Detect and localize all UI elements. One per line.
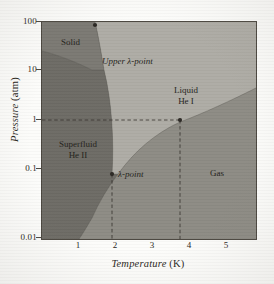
x-tick-label-4: 4 xyxy=(179,241,199,250)
y-tick-label-0.01: 0.01 xyxy=(20,233,37,242)
region-label-liquid-line2: He I xyxy=(178,96,194,106)
x-tick-label-3: 3 xyxy=(142,241,162,250)
region-label-liquid-line1: Liquid xyxy=(174,85,198,95)
phase-diagram-figure: 100 10 1 0.1 0.01 Pressure (atm) xyxy=(0,0,274,284)
y-axis-title-text: Pressure xyxy=(9,104,20,142)
region-label-superfluid-word: Superfluid xyxy=(59,139,97,149)
annotation-label-upper-lambda-point: Upper λ-point xyxy=(102,56,153,67)
y-axis-title-unit: (atm) xyxy=(9,77,20,101)
region-label-solid: Solid xyxy=(61,37,80,48)
region-label-liquid-he-i: Liquid He I xyxy=(158,85,214,107)
marker-boiling-point xyxy=(178,118,182,122)
plot-area: Solid Upper λ-point Liquid He I Superflu… xyxy=(41,21,257,240)
marker-lambda-point xyxy=(110,172,114,176)
annotation-label-lambda-point: λ-point xyxy=(118,169,143,180)
x-axis-title: Temperature (K) xyxy=(41,258,255,269)
region-label-he-ii-word: He II xyxy=(69,150,88,160)
x-axis-title-text: Temperature xyxy=(111,258,166,269)
x-tick-label-2: 2 xyxy=(105,241,125,250)
region-label-gas: Gas xyxy=(210,168,224,179)
x-axis-title-unit: (K) xyxy=(169,258,184,269)
y-tick-label-100: 100 xyxy=(23,17,37,26)
x-tick-label-1: 1 xyxy=(68,241,88,250)
marker-upper-lambda-point xyxy=(93,23,97,27)
phase-regions-svg xyxy=(42,22,256,239)
y-axis-title: Pressure (atm) xyxy=(9,60,20,160)
region-label-superfluid-he-ii: Superfluid He II xyxy=(45,139,111,161)
x-tick-label-5: 5 xyxy=(216,241,236,250)
